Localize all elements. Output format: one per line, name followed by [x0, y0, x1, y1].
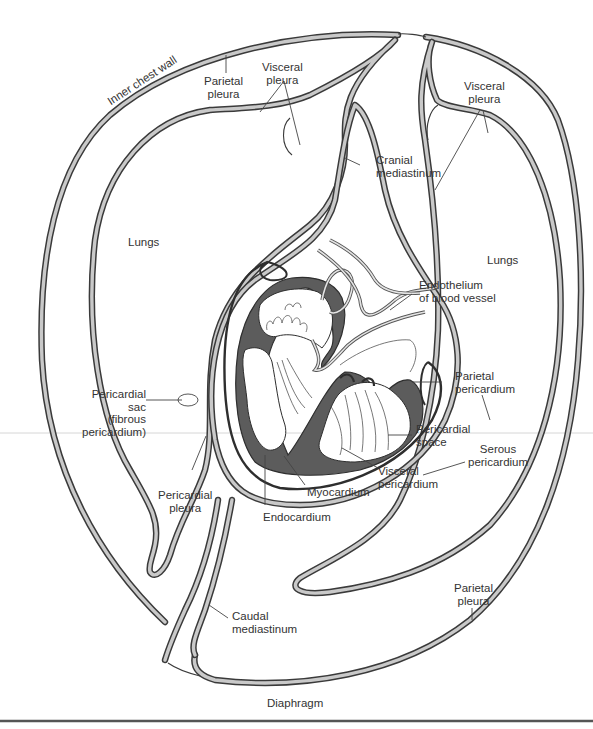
- label-lungs-left: Lungs: [128, 236, 159, 249]
- label-parietal-pericardium: Parietal pericardium: [455, 370, 515, 395]
- label-visceral-pericardium: Visceral pericardium: [378, 465, 438, 490]
- label-parietal-pleura-bottom: Parietal pleura: [454, 582, 493, 607]
- label-visceral-pleura-left: Visceral pleura: [262, 61, 303, 86]
- label-myocardium: Myocardium: [307, 486, 370, 499]
- label-endothelium: Endothelium of blood vessel: [419, 279, 496, 304]
- label-pericardial-pleura: Pericardial pleura: [158, 489, 212, 514]
- label-parietal-pleura-top: Parietal pleura: [204, 75, 243, 100]
- label-endocardium: Endocardium: [263, 511, 331, 524]
- label-cranial-mediastinum: Cranial mediastinum: [376, 154, 441, 179]
- label-serous-pericardium: Serous pericardium: [468, 443, 528, 468]
- label-diaphragm: Diaphragm: [267, 697, 323, 710]
- label-lungs-right: Lungs: [487, 254, 518, 267]
- label-pericardial-sac: Pericardial sac (fibrous pericardium): [82, 388, 146, 438]
- label-visceral-pleura-right: Visceral pleura: [464, 80, 505, 105]
- label-caudal-mediastinum: Caudal mediastinum: [232, 610, 297, 635]
- label-pericardial-space: Pericardial space: [416, 423, 470, 448]
